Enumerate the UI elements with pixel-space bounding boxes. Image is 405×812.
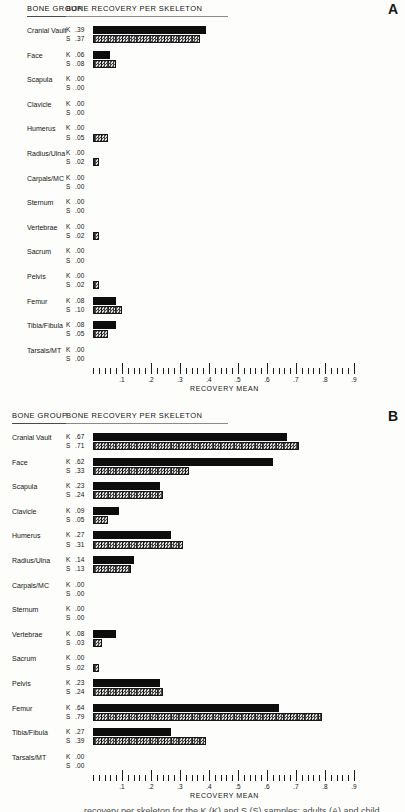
x-axis-title: RECOVERY MEAN <box>93 385 356 392</box>
axis-tick <box>174 775 175 781</box>
value-label: .64 <box>75 704 85 712</box>
value-label: .23 <box>75 679 85 687</box>
axis-tick <box>290 368 291 374</box>
axis-tick <box>244 775 245 781</box>
value-label: .02 <box>75 281 85 289</box>
axis-tick <box>128 775 129 781</box>
bone-label: Clavicle <box>27 101 52 109</box>
bone-label: Vertebrae <box>27 224 57 232</box>
s-bar <box>93 281 99 289</box>
value-label: .08 <box>75 297 85 305</box>
bone-label: Clavicle <box>12 508 37 516</box>
series-key-k: K <box>66 297 70 305</box>
series-key-s: S <box>66 737 70 745</box>
bone-group-row: Carpals/MCK.00S.00 <box>0 174 405 194</box>
axis-tick <box>308 775 309 781</box>
axis-tick-label: .9 <box>351 376 356 384</box>
series-key-s: S <box>66 442 70 450</box>
value-label: .08 <box>75 630 85 638</box>
panel-a: BONE GROUP BONE RECOVERY PER SKELETON A … <box>0 0 405 400</box>
value-label: .00 <box>75 605 85 613</box>
axis-tick <box>168 775 169 781</box>
panel-letter-b: B <box>388 408 398 424</box>
axis-tick <box>250 775 251 781</box>
bone-label: Scapula <box>27 76 52 84</box>
bone-label: Sternum <box>27 199 53 207</box>
axis-tick <box>221 775 222 781</box>
k-bar <box>93 630 116 638</box>
s-bar <box>93 134 108 142</box>
series-key-s: S <box>66 257 70 265</box>
bone-group-row: ScapulaK.23S.24 <box>0 482 405 502</box>
value-label: .62 <box>75 458 85 466</box>
bone-label: Cranial Vault <box>27 27 67 35</box>
value-label: .27 <box>75 728 85 736</box>
axis-tick <box>238 770 239 781</box>
axis-tick <box>105 368 106 374</box>
series-key-s: S <box>66 614 70 622</box>
bone-group-row: FaceK.62S.33 <box>0 458 405 478</box>
s-bar <box>93 232 99 240</box>
series-key-k: K <box>66 198 70 206</box>
value-label: .00 <box>75 149 85 157</box>
title-underline <box>66 16 228 17</box>
panel-b: BONE GROUP BONE RECOVERY PER SKELETON B … <box>0 407 405 807</box>
value-label: .02 <box>75 664 85 672</box>
axis-tick-label: .2 <box>148 783 153 791</box>
series-key-k: K <box>66 581 70 589</box>
axis-tick <box>180 363 181 374</box>
series-key-s: S <box>66 467 70 475</box>
bone-label: Sternum <box>12 606 38 614</box>
series-key-k: K <box>66 26 70 34</box>
s-bar <box>93 713 322 721</box>
k-bar <box>93 26 206 34</box>
bone-group-row: VertebraeK.08S.03 <box>0 630 405 650</box>
axis-tick <box>186 368 187 374</box>
s-bar <box>93 541 183 549</box>
axis-tick <box>145 368 146 374</box>
bone-label: Tibia/Fibula <box>12 729 48 737</box>
axis-tick-label: .7 <box>293 783 298 791</box>
series-key-k: K <box>66 149 70 157</box>
series-key-s: S <box>66 541 70 549</box>
axis-tick <box>273 368 274 374</box>
axis-tick-label: .2 <box>148 376 153 384</box>
k-bar <box>93 556 134 564</box>
axis-tick <box>337 368 338 374</box>
axis-tick <box>331 775 332 781</box>
axis-tick <box>215 775 216 781</box>
axis-tick <box>180 770 181 781</box>
series-key-s: S <box>66 516 70 524</box>
series-key-s: S <box>66 207 70 215</box>
bone-group-row: FaceK.06S.08 <box>0 51 405 71</box>
series-key-k: K <box>66 247 70 255</box>
bone-group-row: Cranial VaultK.39S.37 <box>0 26 405 46</box>
axis-tick <box>157 368 158 374</box>
axis-tick <box>244 368 245 374</box>
axis-tick <box>348 368 349 374</box>
value-label: .00 <box>75 124 85 132</box>
s-bar <box>93 442 299 450</box>
series-key-k: K <box>66 272 70 280</box>
value-label: .05 <box>75 516 85 524</box>
axis-tick <box>331 368 332 374</box>
series-key-k: K <box>66 482 70 490</box>
series-key-k: K <box>66 605 70 613</box>
series-key-s: S <box>66 232 70 240</box>
x-axis-title: RECOVERY MEAN <box>93 792 356 799</box>
axis-tick-label: .3 <box>177 783 182 791</box>
value-label: .00 <box>75 654 85 662</box>
bone-group-row: SternumK.00S.00 <box>0 198 405 218</box>
value-label: .37 <box>75 35 85 43</box>
axis-tick <box>279 368 280 374</box>
bone-label: Pelvis <box>27 273 46 281</box>
axis-tick <box>354 363 355 374</box>
bone-group-header: BONE GROUP <box>12 411 67 424</box>
value-label: .05 <box>75 134 85 142</box>
axis-tick <box>192 368 193 374</box>
bone-label: Sacrum <box>12 655 36 663</box>
axis-tick <box>215 368 216 374</box>
bone-label: Vertebrae <box>12 631 42 639</box>
axis-tick <box>116 368 117 374</box>
series-key-s: S <box>66 109 70 117</box>
